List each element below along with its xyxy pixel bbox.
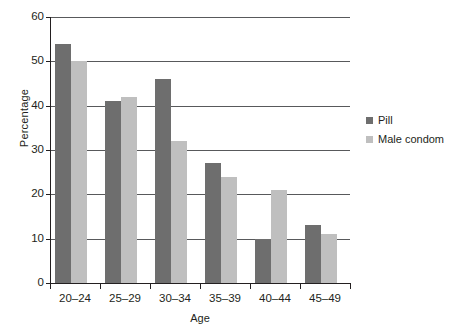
y-tick-label: 30 [18,144,44,156]
plot-area [50,17,350,283]
x-tick-mark [150,283,151,289]
y-tick-label: 10 [18,233,44,245]
bar-group [50,17,100,283]
y-tick-mark [46,150,51,151]
x-tick-mark [350,283,351,289]
bar-group [150,17,200,283]
bar-group [200,17,250,283]
legend-item: Pill [366,114,456,126]
bar [155,79,171,283]
x-tick-mark [300,283,301,289]
legend-item: Male condom [366,133,456,145]
x-tick-mark [250,283,251,289]
y-tick-label: 40 [18,100,44,112]
x-axis-title: Age [50,312,350,324]
bar [271,190,287,283]
bar [221,177,237,283]
legend-label: Pill [378,114,393,126]
bar [171,141,187,283]
bar-group [300,17,350,283]
y-axis-tick-labels: 0102030405060 [0,0,44,336]
bar [321,234,337,283]
bar-group [250,17,300,283]
legend-label: Male condom [378,133,444,145]
y-tick-label: 0 [18,277,44,289]
legend-swatch-icon [366,117,373,124]
bar [105,101,121,283]
y-tick-mark [46,239,51,240]
y-tick-label: 60 [18,11,44,23]
y-tick-mark [46,106,51,107]
bar-group [100,17,150,283]
legend: PillMale condom [366,114,456,152]
y-tick-mark [46,17,51,18]
bar-series-container [50,17,350,283]
bar [121,97,137,283]
bar [205,163,221,283]
y-tick-mark [46,61,51,62]
y-tick-mark [46,194,51,195]
legend-swatch-icon [366,136,373,143]
x-tick-mark [100,283,101,289]
y-tick-label: 50 [18,55,44,67]
bar [255,239,271,283]
x-tick-mark [50,283,51,289]
bar [55,44,71,283]
y-tick-label: 20 [18,188,44,200]
bar-chart: Percentage 0102030405060 20–2425–2930–34… [0,0,457,336]
bar [305,225,321,283]
x-tick-label: 45–49 [290,292,360,304]
x-tick-mark [200,283,201,289]
bar [71,61,87,283]
